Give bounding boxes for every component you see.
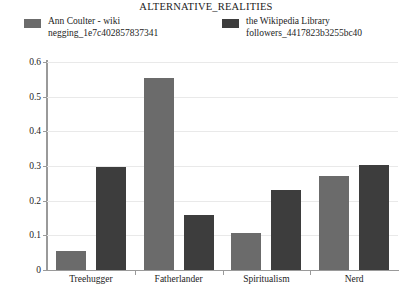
x-axis-category-separator (223, 270, 224, 275)
y-axis-tick-label: 0.6 (29, 57, 41, 67)
bar-fatherlander-series-1[interactable] (144, 78, 174, 270)
y-axis-tick-label: 0.4 (29, 126, 41, 136)
legend-label-series-2: the Wikipedia Library followers_4417823b… (246, 16, 362, 39)
chart-legend: Ann Coulter - wiki negging_1e7c402857837… (0, 16, 412, 44)
bar-nerd-series-2[interactable] (359, 165, 389, 270)
x-axis-label-treehugger: Treehugger (69, 274, 112, 284)
legend-item-series-1[interactable]: Ann Coulter - wiki negging_1e7c402857837… (24, 16, 158, 39)
bar-fatherlander-series-2[interactable] (184, 215, 214, 270)
y-axis-tick-label: 0.3 (29, 161, 41, 171)
legend-label-series-1-line2: negging_1e7c402857837341 (48, 28, 158, 40)
legend-swatch-icon-series-2 (222, 19, 239, 28)
y-axis-tick-mark (43, 270, 47, 271)
legend-label-series-2-line2: followers_4417823b3255bc40 (246, 28, 362, 40)
x-axis-category-separator (135, 270, 136, 275)
y-axis-tick-label: 0.2 (29, 196, 41, 206)
x-axis-label-fatherlander: Fatherlander (155, 274, 203, 284)
legend-label-series-1-line1: Ann Coulter - wiki (48, 16, 120, 26)
bars-layer (47, 62, 398, 270)
legend-label-series-2-line1: the Wikipedia Library (246, 16, 330, 26)
bar-chart: ALTERNATIVE_REALITIES Ann Coulter - wiki… (0, 0, 412, 300)
bar-treehugger-series-1[interactable] (56, 251, 86, 270)
y-axis-tick-label: 0.1 (29, 230, 41, 240)
chart-title: ALTERNATIVE_REALITIES (0, 1, 412, 12)
bar-nerd-series-1[interactable] (319, 176, 349, 270)
bar-spiritualism-series-2[interactable] (271, 190, 301, 270)
legend-label-series-1: Ann Coulter - wiki negging_1e7c402857837… (48, 16, 158, 39)
legend-swatch-icon-series-1 (24, 19, 41, 28)
legend-item-series-2[interactable]: the Wikipedia Library followers_4417823b… (222, 16, 362, 39)
x-axis-category-separator (310, 270, 311, 275)
plot-area: 00.10.20.30.40.50.6 (47, 62, 398, 270)
y-axis-tick-label: 0 (36, 265, 41, 275)
x-axis-label-nerd: Nerd (345, 274, 364, 284)
bar-spiritualism-series-1[interactable] (231, 233, 261, 270)
y-axis-tick-label: 0.5 (29, 92, 41, 102)
bar-treehugger-series-2[interactable] (96, 167, 126, 270)
x-axis-label-spiritualism: Spiritualism (243, 274, 289, 284)
